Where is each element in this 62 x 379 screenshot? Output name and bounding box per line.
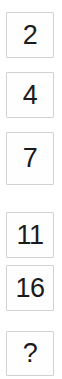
sequence-cell[interactable]: 11 (6, 212, 54, 258)
sequence-cell-value: 4 (23, 82, 38, 109)
sequence-cell-value: 16 (15, 275, 44, 302)
sequence-cell-value: ? (23, 340, 38, 367)
sequence-cell[interactable]: 16 (6, 265, 54, 311)
sequence-cell-value: 2 (23, 22, 38, 49)
sequence-cell[interactable]: 7 (6, 132, 54, 185)
sequence-cell[interactable]: 2 (6, 12, 54, 58)
sequence-cell-value: 7 (23, 145, 38, 172)
sequence-cell-value: 11 (16, 222, 43, 249)
sequence-cell-unknown[interactable]: ? (6, 331, 54, 376)
sequence-cell[interactable]: 4 (6, 72, 54, 118)
number-sequence-column: 2 4 7 11 16 ? (0, 0, 62, 379)
